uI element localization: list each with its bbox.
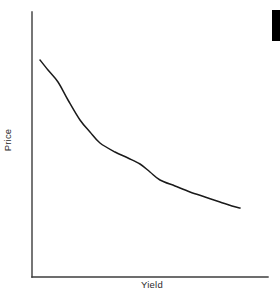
- y-axis-label: Price: [1, 119, 15, 161]
- cropped-black-bar-icon: [272, 10, 280, 41]
- price-yield-curve: [40, 60, 240, 208]
- price-yield-chart: Price Yield: [0, 0, 280, 297]
- x-axis-label: Yield: [112, 279, 192, 291]
- plot-area: [0, 0, 280, 297]
